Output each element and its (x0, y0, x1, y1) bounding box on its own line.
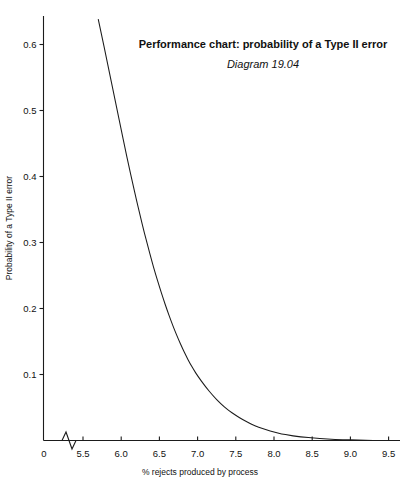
x-axis-label: % rejects produced by process (142, 467, 258, 477)
x-tick-label: 9.0 (344, 448, 357, 459)
y-axis: 0.10.20.30.40.50.6 Probability of a Type… (4, 16, 44, 441)
y-tick-label: 0.4 (23, 171, 36, 182)
y-tick-label: 0.2 (23, 303, 36, 314)
x-tick-label: 7.0 (191, 448, 204, 459)
chart-subtitle: Diagram 19.04 (227, 58, 299, 70)
x-tick-label: 7.5 (229, 448, 242, 459)
chart-titles: Performance chart: probability of a Type… (139, 38, 388, 70)
x-tick-label: 6.5 (153, 448, 166, 459)
x-tick-label: 5.5 (76, 448, 89, 459)
x-tick-label: 6.0 (115, 448, 128, 459)
y-tick-label: 0.5 (23, 105, 36, 116)
y-tick-label: 0.1 (23, 369, 36, 380)
y-tick-group: 0.10.20.30.40.50.6 (23, 39, 43, 380)
chart-canvas: Performance chart: probability of a Type… (0, 0, 403, 482)
type-ii-error-curve (98, 19, 388, 440)
performance-chart: Performance chart: probability of a Type… (0, 0, 403, 482)
x-axis: 5.56.06.57.07.58.08.59.09.5 0 % rejects … (41, 432, 400, 477)
y-tick-label: 0.3 (23, 237, 36, 248)
y-tick-label: 0.6 (23, 39, 36, 50)
x-tick-label: 8.5 (306, 448, 319, 459)
series-group (98, 19, 388, 440)
x-tick-label: 8.0 (267, 448, 280, 459)
origin-tick-label: 0 (41, 448, 46, 459)
x-tick-label: 9.5 (382, 448, 395, 459)
y-axis-label: Probability of a Type II error (4, 176, 14, 280)
chart-title: Performance chart: probability of a Type… (139, 38, 388, 50)
